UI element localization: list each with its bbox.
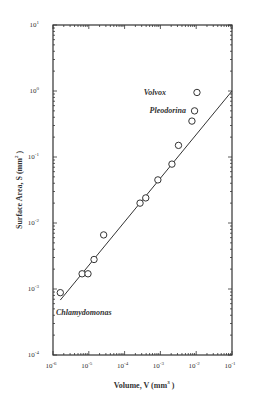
data-point-marker — [85, 271, 91, 277]
x-tick-label: 10-2 — [189, 361, 201, 370]
tick-labels: 10-610-510-410-310-210-110110010-110-210… — [28, 20, 236, 370]
y-axis-title: Surface Area, S (mm2 ) — [14, 151, 24, 229]
plot-frame — [53, 25, 232, 355]
x-tick-label: 10-1 — [224, 361, 236, 370]
y-tick-label: 10-2 — [28, 218, 40, 227]
y-tick-label: 10-4 — [28, 350, 40, 359]
y-tick-label: 10-1 — [28, 152, 40, 161]
data-point-marker — [191, 108, 197, 114]
y-tick-label: 10-3 — [28, 284, 40, 293]
data-point-marker — [169, 161, 175, 167]
annotation-chlamydomonas: Chlamydomonas — [56, 308, 112, 317]
axis-ticks — [53, 25, 232, 355]
data-point-marker — [175, 142, 181, 148]
x-tick-label: 10-6 — [45, 361, 57, 370]
scatter-chart: 10-610-510-410-310-210-110110010-110-210… — [0, 0, 254, 409]
annotation-pleodorina: Pleodorina — [150, 106, 186, 115]
annotation-volvox: Volvox — [144, 88, 166, 97]
data-point-marker — [137, 200, 143, 206]
data-point-marker — [143, 195, 149, 201]
data-point-marker — [100, 232, 106, 238]
x-tick-label: 10-5 — [81, 361, 93, 370]
x-tick-label: 10-3 — [153, 361, 165, 370]
data-point-marker — [194, 89, 200, 95]
data-point-marker — [91, 256, 97, 262]
data-point-marker — [155, 177, 161, 183]
x-axis-title: Volume, V (mm3 ) — [114, 380, 175, 390]
data-point-marker — [57, 289, 63, 295]
y-tick-label: 100 — [30, 86, 40, 95]
y-tick-label: 101 — [30, 20, 40, 29]
x-tick-label: 10-4 — [117, 361, 129, 370]
data-points — [57, 89, 200, 296]
data-point-marker — [189, 118, 195, 124]
